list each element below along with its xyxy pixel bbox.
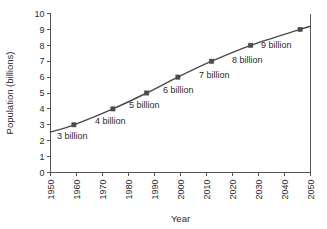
y-tick-label: 1 xyxy=(39,152,44,162)
y-tick-label: 0 xyxy=(39,168,44,178)
data-annotation-label: 6 billion xyxy=(163,85,194,95)
data-point-marker xyxy=(145,91,149,95)
y-tick-label: 4 xyxy=(39,104,44,114)
x-tick-label: 1990 xyxy=(150,180,160,200)
x-tick-label: 2010 xyxy=(202,180,212,200)
data-point-marker xyxy=(176,75,180,79)
y-tick-label: 10 xyxy=(34,9,44,19)
data-point-marker xyxy=(111,107,115,111)
data-annotation-label: 5 billion xyxy=(129,100,160,110)
data-annotations: 3 billion4 billion5 billion6 billion7 bi… xyxy=(57,40,292,141)
population-line-chart: 012345678910 195019601970198019902000201… xyxy=(0,0,327,229)
data-point-marker xyxy=(249,43,253,47)
x-tick-label: 2030 xyxy=(254,180,264,200)
data-point-marker xyxy=(210,59,214,63)
y-tick-label: 8 xyxy=(39,41,44,51)
data-annotation-label: 7 billion xyxy=(199,70,230,80)
x-axis-ticks: 1950196019701980199020002010202020302040… xyxy=(46,173,316,200)
data-annotation-label: 9 billion xyxy=(261,40,292,50)
x-tick-label: 1960 xyxy=(72,180,82,200)
data-annotation-label: 4 billion xyxy=(95,116,126,126)
chart-canvas: 012345678910 195019601970198019902000201… xyxy=(0,0,327,229)
x-tick-label: 2000 xyxy=(176,180,186,200)
y-tick-label: 5 xyxy=(39,88,44,98)
data-annotation-label: 3 billion xyxy=(57,131,88,141)
y-tick-label: 7 xyxy=(39,56,44,66)
y-tick-label: 6 xyxy=(39,72,44,82)
y-axis-ticks: 012345678910 xyxy=(34,9,50,178)
x-tick-label: 1970 xyxy=(98,180,108,200)
y-axis-title: Population (billions) xyxy=(4,52,15,135)
data-annotation-label: 8 billion xyxy=(232,55,263,65)
x-axis-title: Year xyxy=(171,213,190,224)
data-point-marker xyxy=(72,123,76,127)
y-tick-label: 2 xyxy=(39,136,44,146)
data-point-marker xyxy=(298,27,302,31)
y-tick-label: 9 xyxy=(39,25,44,35)
y-tick-label: 3 xyxy=(39,120,44,130)
x-tick-label: 2020 xyxy=(228,180,238,200)
x-tick-label: 2050 xyxy=(306,180,316,200)
x-tick-label: 1950 xyxy=(46,180,56,200)
x-tick-label: 2040 xyxy=(280,180,290,200)
x-tick-label: 1980 xyxy=(124,180,134,200)
